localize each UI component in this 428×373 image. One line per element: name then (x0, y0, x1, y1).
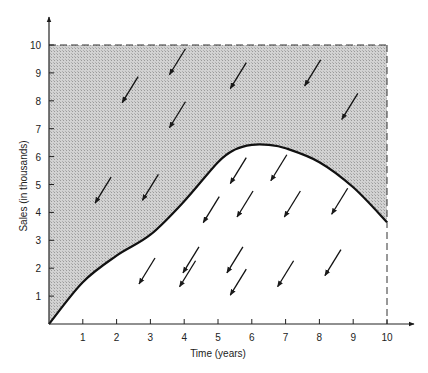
x-tick-label: 1 (80, 332, 86, 343)
x-tick-label: 4 (181, 332, 187, 343)
y-tick-label: 10 (30, 40, 42, 51)
y-tick-label: 6 (35, 152, 41, 163)
arrow-icon (139, 258, 155, 284)
arrow-icon (230, 269, 246, 295)
x-tick-label: 5 (215, 332, 221, 343)
arrow-icon (237, 191, 253, 217)
y-tick-label: 1 (35, 291, 41, 302)
x-axis-title: Time (years) (190, 348, 246, 359)
y-tick-label: 2 (35, 263, 41, 274)
x-tick-label: 6 (249, 332, 255, 343)
x-tick-label: 3 (148, 332, 154, 343)
y-tick-label: 7 (35, 124, 41, 135)
arrow-icon (332, 188, 348, 214)
arrow-icon (271, 155, 287, 181)
x-tick-label: 7 (283, 332, 289, 343)
x-tick-label: 8 (317, 332, 323, 343)
y-axis-title: Sales (in thousands) (18, 140, 29, 231)
y-tick-label: 3 (35, 235, 41, 246)
x-tick-label: 10 (381, 332, 393, 343)
arrow-icon (227, 247, 243, 273)
arrow-icon (203, 197, 219, 223)
chart: 1234567891012345678910 Time (years) Sale… (0, 0, 428, 373)
arrow-icon (230, 158, 246, 184)
y-tick-label: 5 (35, 180, 41, 191)
y-tick-label: 8 (35, 96, 41, 107)
y-tick-label: 4 (35, 207, 41, 218)
arrow-icon (325, 250, 341, 276)
x-tick-label: 2 (114, 332, 120, 343)
arrow-icon (278, 261, 294, 287)
x-tick-label: 9 (350, 332, 356, 343)
shaded-region-above-curve (49, 45, 387, 324)
arrow-icon (284, 191, 300, 217)
shaded-area (49, 45, 387, 324)
y-tick-label: 9 (35, 68, 41, 79)
